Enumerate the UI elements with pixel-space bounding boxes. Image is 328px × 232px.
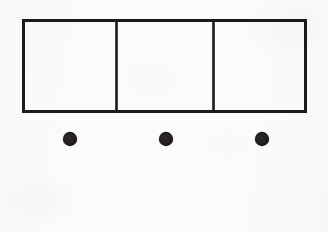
dot-row [63,132,269,146]
dot-1 [63,132,77,146]
dot-2 [159,132,173,146]
dot-3 [255,132,269,146]
figure-canvas [0,0,328,232]
rectangle-outline [24,21,306,112]
divided-rectangle [24,21,306,112]
diagram-figure [0,0,328,232]
